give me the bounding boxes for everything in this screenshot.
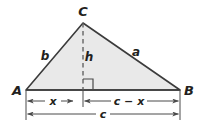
side-label-a: a (132, 45, 140, 59)
side-label-b: b (41, 49, 50, 63)
vertex-label-b: B (184, 83, 194, 98)
triangle-diagram-canvas: C A B b a h x c − x c (0, 0, 205, 126)
dimension-label-c-full: c (100, 108, 107, 121)
vertex-label-a: A (11, 83, 22, 98)
vertex-label-c: C (78, 4, 88, 19)
dimension-label-c-minus-x: c − x (114, 95, 145, 108)
geometry-figure: C A B b a h x c − x c (0, 0, 205, 126)
altitude-label-h: h (85, 50, 94, 64)
dimension-label-x: x (48, 95, 57, 108)
